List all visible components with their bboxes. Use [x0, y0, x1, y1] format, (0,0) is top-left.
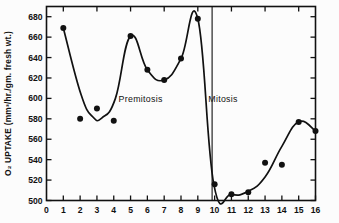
x-axis-tick-labels: 012345678910111213141516: [44, 205, 320, 215]
y-tick-label: 620: [28, 73, 43, 83]
y-tick-label: 580: [28, 114, 43, 124]
data-point: [94, 106, 100, 112]
chart-annotations: PremitosisMitosis: [119, 94, 238, 104]
data-point: [60, 25, 66, 31]
x-tick-label: 6: [145, 205, 150, 215]
data-points: [60, 16, 318, 198]
y-tick-label: 640: [28, 53, 43, 63]
y-tick-label: 560: [28, 134, 43, 144]
data-point: [212, 181, 218, 187]
data-point: [245, 189, 251, 195]
x-tick-label: 16: [311, 205, 321, 215]
y-axis-title-text: O₂ UPTAKE (mm³/hr./gm. fresh wt.): [3, 31, 13, 176]
annotation-premitosis: Premitosis: [119, 94, 163, 104]
x-tick-label: 1: [61, 205, 66, 215]
x-tick-label: 4: [111, 205, 116, 215]
x-tick-label: 13: [260, 205, 270, 215]
y-tick-label: 600: [28, 93, 43, 103]
chart-canvas: 500520540560580600620640660680 012345678…: [0, 0, 339, 223]
y-axis-title: O₂ UPTAKE (mm³/hr./gm. fresh wt.): [3, 31, 13, 176]
data-point: [161, 77, 167, 83]
axis-frame: [47, 7, 316, 201]
data-point: [313, 128, 319, 134]
data-point: [296, 119, 302, 125]
data-point: [262, 160, 268, 166]
data-point: [144, 67, 150, 73]
y-axis-tick-labels: 500520540560580600620640660680: [28, 12, 43, 206]
y-tick-label: 660: [28, 32, 43, 42]
x-tick-label: 9: [195, 205, 200, 215]
data-point: [195, 16, 201, 22]
x-tick-label: 2: [78, 205, 83, 215]
y-tick-label: 500: [28, 196, 43, 206]
y-tick-label: 520: [28, 175, 43, 185]
x-tick-label: 11: [227, 205, 236, 215]
x-tick-label: 3: [95, 205, 100, 215]
x-tick-label: 15: [294, 205, 304, 215]
x-tick-label: 0: [44, 205, 49, 215]
series-line: [63, 11, 315, 204]
y-tick-label: 680: [28, 12, 43, 22]
x-tick-label: 14: [277, 205, 287, 215]
x-tick-label: 5: [128, 205, 133, 215]
data-point: [178, 56, 184, 62]
x-tick-label: 7: [162, 205, 167, 215]
annotation-mitosis: Mitosis: [208, 94, 238, 104]
x-tick-label: 8: [179, 205, 184, 215]
data-point: [77, 116, 83, 122]
chart-figure: 500520540560580600620640660680 012345678…: [0, 0, 339, 223]
data-point: [279, 162, 285, 168]
data-curve: [63, 11, 315, 204]
x-tick-label: 10: [210, 205, 220, 215]
data-point: [228, 191, 234, 197]
x-tick-label: 12: [243, 205, 253, 215]
y-tick-label: 540: [28, 155, 43, 165]
data-point: [111, 118, 117, 124]
data-point: [128, 33, 134, 39]
